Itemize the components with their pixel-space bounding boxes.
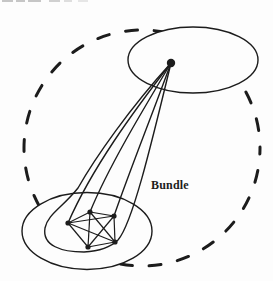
bundle-label: Bundle [151, 178, 189, 193]
cluster-node [85, 244, 90, 249]
cluster-node [87, 209, 92, 214]
cluster-node [111, 213, 116, 218]
cluster-node [65, 220, 70, 225]
scanned-figure-page: Bundle [0, 0, 273, 281]
hub-node [167, 59, 175, 67]
top-ellipse [128, 27, 258, 93]
cluster-node [112, 239, 117, 244]
bundle-diagram [0, 0, 273, 281]
bundle-curve-3 [114, 63, 171, 216]
